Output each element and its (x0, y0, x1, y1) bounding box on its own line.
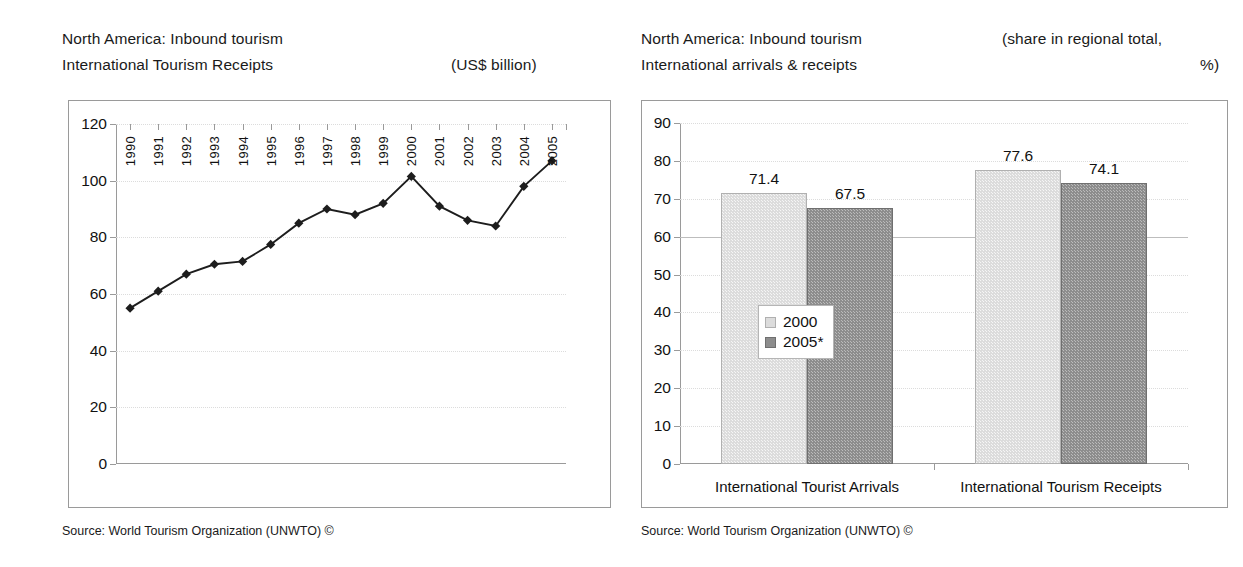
data-point-marker (125, 304, 134, 313)
bar-value-label: 77.6 (1003, 147, 1033, 165)
x-tick-label: 2002 (461, 136, 476, 166)
x-tick-label: 2005 (545, 136, 560, 166)
right-chart-header-line2: International arrivals & receipts (641, 56, 857, 74)
y-tick (674, 388, 680, 389)
x-tick-label: 2004 (517, 136, 532, 166)
y-tick (674, 426, 680, 427)
right-chart-frame: 0102030405060708090 71.467.577.674.1 Int… (641, 100, 1228, 508)
y-tick-label: 30 (654, 341, 671, 359)
x-tick-label: 1995 (264, 136, 279, 166)
bar-chart-plot-area: 0102030405060708090 71.467.577.674.1 Int… (680, 123, 1188, 464)
x-tick-label: 2003 (489, 136, 504, 166)
y-tick-label: 60 (654, 228, 671, 246)
legend-swatch-icon (765, 317, 776, 328)
x-tick (552, 124, 553, 130)
y-tick-label: 20 (90, 398, 107, 416)
right-chart-source: Source: World Tourism Organization (UNWT… (641, 524, 913, 538)
data-point-marker (238, 257, 247, 266)
bar-value-label: 71.4 (749, 170, 779, 188)
category-separator-tick (1188, 464, 1189, 470)
y-tick (674, 237, 680, 238)
y-tick-label: 20 (654, 379, 671, 397)
x-tick (355, 124, 356, 130)
y-tick (674, 161, 680, 162)
category-label: International Tourist Arrivals (715, 478, 899, 495)
line-path (130, 161, 552, 308)
bar-chart-legend: 20002005* (758, 305, 834, 359)
legend-item-2005[interactable]: 2005* (765, 333, 824, 351)
x-tick-label: 1996 (292, 136, 307, 166)
x-tick (439, 124, 440, 130)
y-tick-label: 80 (90, 228, 107, 246)
x-tick-label: 1991 (151, 136, 166, 166)
y-tick (110, 464, 116, 465)
left-chart-header-line1: North America: Inbound tourism (62, 30, 283, 48)
y-tick (674, 464, 680, 465)
bar-2000-2 (975, 170, 1061, 464)
data-point-marker (182, 270, 191, 279)
y-tick-label: 40 (654, 303, 671, 321)
category-label: International Tourism Receipts (960, 478, 1162, 495)
right-chart-header-line1: North America: Inbound tourism (641, 30, 862, 48)
right-chart-unit-note-line1: (share in regional total, (1002, 30, 1162, 48)
x-tick (299, 124, 300, 130)
x-tick-label: 1997 (320, 136, 335, 166)
x-tick (383, 124, 384, 130)
legend-item-2000[interactable]: 2000 (765, 313, 824, 331)
x-tick (271, 124, 272, 130)
x-tick-label: 1994 (236, 136, 251, 166)
category-separator-tick (934, 464, 935, 470)
left-chart-unit-note: (US$ billion) (451, 56, 537, 74)
x-tick (566, 124, 567, 130)
data-point-marker (154, 287, 163, 296)
data-point-marker (322, 204, 331, 213)
y-tick-label: 70 (654, 190, 671, 208)
data-point-marker (210, 260, 219, 269)
y-tick (674, 275, 680, 276)
right-chart-unit-note-line2: %) (1200, 56, 1219, 74)
x-tick (243, 124, 244, 130)
x-tick (158, 124, 159, 130)
x-tick-label: 2001 (432, 136, 447, 166)
bar-2005-2 (1061, 183, 1147, 464)
left-chart-panel: North America: Inbound tourism Internati… (0, 0, 625, 567)
y-tick-label: 10 (654, 417, 671, 435)
y-tick-label: 50 (654, 266, 671, 284)
y-tick-label: 100 (81, 172, 107, 190)
y-tick-label: 40 (90, 342, 107, 360)
right-chart-panel: North America: Inbound tourism Internati… (625, 0, 1243, 567)
x-tick (214, 124, 215, 130)
x-tick (411, 124, 412, 130)
x-tick-label: 1998 (348, 136, 363, 166)
y-tick-label: 0 (662, 455, 671, 473)
bar-value-label: 67.5 (835, 185, 865, 203)
y-tick-label: 90 (654, 114, 671, 132)
y-tick (674, 199, 680, 200)
legend-label: 2000 (783, 313, 817, 331)
y-tick-label: 0 (98, 455, 107, 473)
y-tick-label: 120 (81, 115, 107, 133)
legend-label: 2005* (783, 333, 824, 351)
x-tick-label: 2000 (404, 136, 419, 166)
line-chart-plot-area: 020406080100120 199019911992199319941995… (116, 124, 566, 464)
y-axis-line-right (680, 123, 681, 464)
x-tick (130, 124, 131, 130)
y-tick (674, 312, 680, 313)
y-tick (674, 350, 680, 351)
left-chart-source: Source: World Tourism Organization (UNWT… (62, 524, 334, 538)
x-tick-label: 1992 (179, 136, 194, 166)
y-tick-label: 60 (90, 285, 107, 303)
x-tick-label: 1999 (376, 136, 391, 166)
data-point-marker (463, 216, 472, 225)
x-tick (327, 124, 328, 130)
x-tick (496, 124, 497, 130)
y-tick (674, 123, 680, 124)
x-tick-label: 1990 (123, 136, 138, 166)
bar-value-label: 74.1 (1089, 160, 1119, 178)
x-tick (468, 124, 469, 130)
data-point-marker (350, 210, 359, 219)
gridline (680, 123, 1188, 124)
line-series-2005 (116, 124, 566, 464)
x-tick (186, 124, 187, 130)
left-chart-frame: 020406080100120 199019911992199319941995… (68, 100, 611, 508)
